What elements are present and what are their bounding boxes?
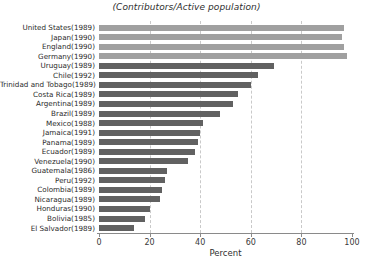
- bar: [99, 196, 160, 202]
- bar: [99, 82, 251, 88]
- category-label: Peru(1992): [0, 176, 95, 185]
- bar-chart: (Contributors/Active population) United …: [0, 0, 373, 261]
- bar-row: El Salvador(1989): [0, 224, 373, 234]
- x-tick-label: 20: [145, 238, 155, 247]
- bar: [99, 63, 274, 69]
- tick-mark: [352, 233, 353, 237]
- category-label: Trinidad and Tobago(1989): [0, 80, 95, 89]
- bar: [99, 130, 200, 136]
- bar: [99, 187, 162, 193]
- chart-title: (Contributors/Active population): [0, 2, 373, 12]
- category-label: Bolivia(1985): [0, 214, 95, 223]
- x-axis-label: Percent: [99, 248, 352, 258]
- x-tick-label: 0: [96, 238, 101, 247]
- category-label: Guatemala(1986): [0, 166, 95, 175]
- tick-mark: [251, 233, 252, 237]
- category-label: Brazil(1989): [0, 109, 95, 118]
- tick-mark: [200, 233, 201, 237]
- category-label: El Salvador(1989): [0, 224, 95, 233]
- bar: [99, 72, 258, 78]
- category-label: Venezuela(1990): [0, 157, 95, 166]
- category-label: Ecuador(1989): [0, 147, 95, 156]
- bar: [99, 139, 198, 145]
- category-label: Germany(1990): [0, 52, 95, 61]
- bar: [99, 149, 195, 155]
- tick-mark: [301, 233, 302, 237]
- bar: [99, 177, 165, 183]
- bar: [99, 158, 188, 164]
- category-label: England(1990): [0, 42, 95, 51]
- category-label: Uruguay(1989): [0, 61, 95, 70]
- category-label: Chile(1992): [0, 71, 95, 80]
- bar: [99, 216, 145, 222]
- category-label: Japan(1990): [0, 33, 95, 42]
- x-tick-label: 100: [344, 238, 359, 247]
- category-label: Costa Rica(1989): [0, 90, 95, 99]
- bar: [99, 120, 203, 126]
- tick-mark: [99, 233, 100, 237]
- category-label: Panama(1989): [0, 138, 95, 147]
- category-label: Argentina(1989): [0, 99, 95, 108]
- bar: [99, 101, 233, 107]
- x-tick-label: 80: [296, 238, 306, 247]
- x-tick-label: 60: [246, 238, 256, 247]
- bar: [99, 25, 344, 31]
- bar: [99, 91, 238, 97]
- bar: [99, 168, 167, 174]
- bar: [99, 206, 150, 212]
- bar: [99, 34, 342, 40]
- x-tick-label: 40: [195, 238, 205, 247]
- category-label: United States(1989): [0, 23, 95, 32]
- category-label: Honduras(1990): [0, 204, 95, 213]
- bar: [99, 53, 347, 59]
- bar: [99, 111, 220, 117]
- bar: [99, 225, 134, 231]
- bar: [99, 44, 344, 50]
- category-label: Jamaica(1991): [0, 128, 95, 137]
- category-label: Nicaragua(1989): [0, 195, 95, 204]
- category-label: Mexico(1988): [0, 119, 95, 128]
- tick-mark: [150, 233, 151, 237]
- category-label: Colombia(1989): [0, 185, 95, 194]
